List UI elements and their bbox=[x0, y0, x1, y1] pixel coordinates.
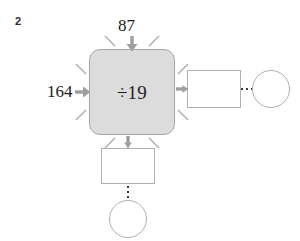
ellipsis-dot bbox=[241, 88, 243, 90]
function-machine-diagram: 2 ÷19 87 164 bbox=[0, 0, 300, 241]
problem-number: 2 bbox=[15, 16, 21, 27]
ellipsis-dot bbox=[127, 186, 129, 188]
ellipsis-dot bbox=[127, 191, 129, 193]
right-output-rectangle[interactable] bbox=[187, 70, 241, 108]
ellipsis-dot bbox=[127, 196, 129, 198]
left-input-value: 164 bbox=[47, 83, 73, 100]
bottom-output-arrow-icon bbox=[124, 136, 132, 149]
operator-box: ÷19 bbox=[89, 49, 175, 135]
top-input-value: 87 bbox=[118, 17, 135, 34]
ellipsis-dot bbox=[246, 88, 248, 90]
bottom-ellipsis bbox=[126, 186, 130, 198]
bottom-output-rectangle[interactable] bbox=[101, 148, 155, 184]
bottom-output-circle[interactable] bbox=[109, 200, 147, 238]
operator-label: ÷19 bbox=[117, 83, 147, 102]
right-output-circle[interactable] bbox=[252, 70, 290, 108]
